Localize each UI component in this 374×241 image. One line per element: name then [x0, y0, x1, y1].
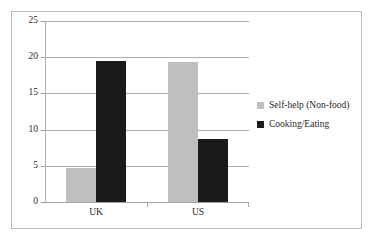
x-axis-separator: [147, 202, 148, 207]
y-axis-line: [45, 21, 46, 202]
gridline: [45, 57, 249, 58]
gridline: [45, 93, 249, 94]
x-axis-category-label: US: [192, 208, 204, 218]
gridline: [45, 130, 249, 131]
y-axis-tick-label: 10: [29, 125, 39, 135]
chart-legend: Self-help (Non-food) Cooking/Eating: [257, 101, 349, 129]
legend-swatch-icon: [257, 121, 264, 128]
y-axis-tick: [41, 57, 45, 58]
legend-item[interactable]: Cooking/Eating: [257, 120, 349, 130]
x-axis-category-label: UK: [89, 208, 103, 218]
y-axis-tick-label: 20: [29, 52, 39, 62]
y-axis-tick: [41, 166, 45, 167]
x-axis-separator: [248, 202, 249, 207]
bar: [198, 139, 228, 202]
y-axis-tick-label: 25: [29, 16, 39, 26]
legend-item-label: Cooking/Eating: [269, 120, 329, 130]
legend-swatch-icon: [257, 102, 264, 109]
gridline: [45, 21, 249, 22]
y-axis-tick-label: 5: [33, 161, 38, 171]
bar: [168, 62, 198, 202]
y-axis-tick: [41, 130, 45, 131]
y-axis-tick-label: 0: [33, 197, 38, 207]
chart-frame: 0510152025 UKUS Self-help (Non-food) Coo…: [11, 11, 362, 229]
bar: [96, 61, 126, 202]
plot-area: 0510152025 UKUS: [45, 21, 249, 202]
legend-item-label: Self-help (Non-food): [269, 101, 349, 111]
legend-item[interactable]: Self-help (Non-food): [257, 101, 349, 111]
bar: [66, 168, 96, 202]
y-axis-tick: [41, 93, 45, 94]
x-axis: UKUS: [45, 202, 249, 224]
y-axis-tick: [41, 21, 45, 22]
y-axis-tick-label: 15: [29, 89, 39, 99]
